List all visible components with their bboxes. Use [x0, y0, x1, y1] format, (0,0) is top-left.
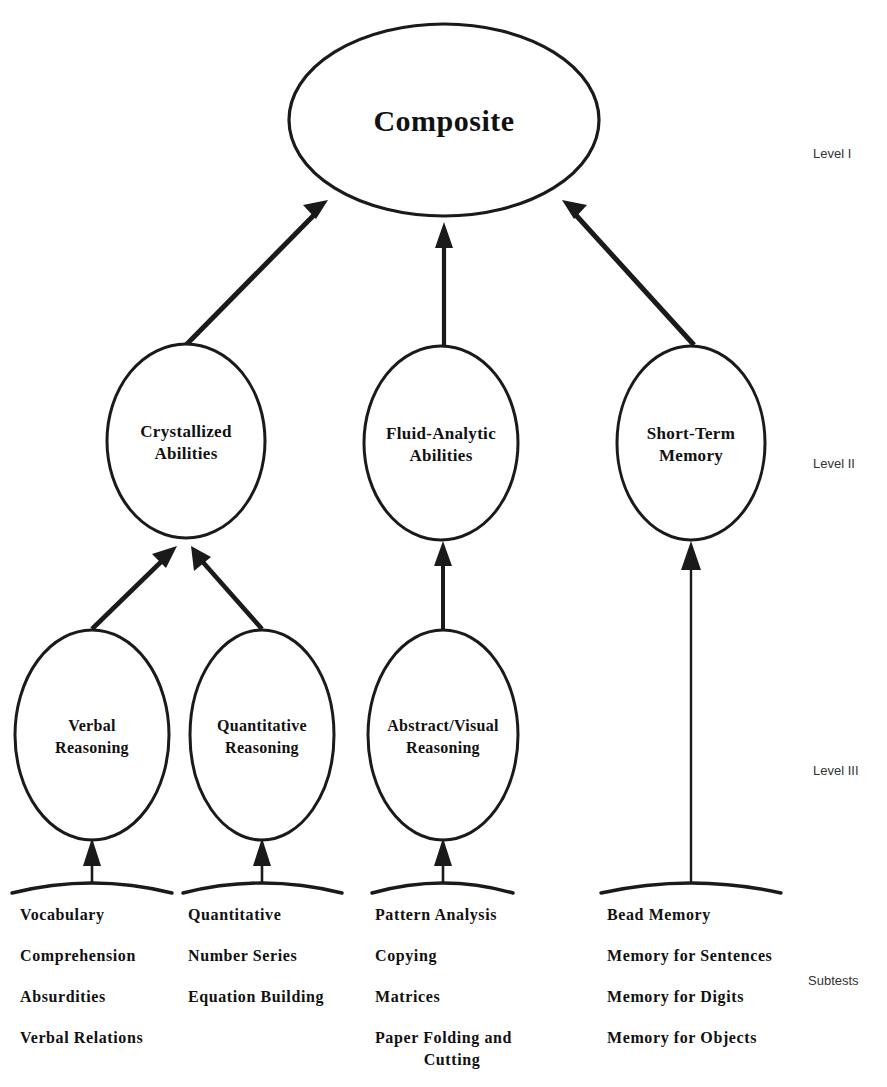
quantitative-reasoning-label-line1: Quantitative [217, 717, 307, 734]
subtest-item: Memory for Digits [607, 988, 744, 1006]
node-composite: Composite [289, 24, 599, 216]
subtest-item: Equation Building [188, 988, 324, 1006]
level-label-three: Level III [813, 763, 859, 778]
subtest-item: Copying [375, 947, 437, 965]
subtest-item: Memory for Objects [607, 1029, 757, 1047]
fluid-analytic-abilities-label-line2: Abilities [409, 446, 472, 465]
abstract-visual-reasoning-ellipse [368, 630, 518, 840]
brace-verbal-subtests [12, 883, 172, 893]
composite-label: Composite [373, 104, 514, 137]
subtest-item: Comprehension [20, 947, 136, 965]
arrow-quantitative-subtests-to-quantitative [253, 838, 271, 884]
arrow-crystallized-to-composite [186, 200, 328, 345]
arrow-abstractvisual-to-fluid [434, 541, 452, 630]
subtest-item: Vocabulary [20, 906, 105, 924]
crystallized-abilities-label-line1: Crystallized [140, 422, 232, 441]
fluid-analytic-abilities-ellipse [364, 346, 518, 540]
subtest-group-abstract-visual-reasoning: Pattern Analysis Copying Matrices Paper … [375, 906, 512, 1069]
subtest-item: Verbal Relations [20, 1029, 143, 1046]
arrow-verbal-subtests-to-verbal [83, 838, 101, 884]
verbal-reasoning-label-line2: Reasoning [55, 739, 129, 757]
level-label-one: Level I [813, 146, 851, 161]
verbal-reasoning-ellipse [15, 630, 169, 840]
subtest-item: Memory for Sentences [607, 947, 772, 965]
subtest-group-verbal-reasoning: Vocabulary Comprehension Absurdities Ver… [20, 906, 143, 1046]
arrow-abstract-subtests-to-abstract [434, 838, 452, 884]
short-term-memory-label-line1: Short-Term [647, 424, 735, 443]
brace-quantitative-subtests [183, 883, 342, 893]
short-term-memory-label-line2: Memory [659, 446, 723, 465]
verbal-reasoning-label-line1: Verbal [68, 717, 116, 734]
abstract-visual-reasoning-label-line1: Abstract/Visual [387, 717, 499, 734]
arrow-fluid-to-composite [435, 222, 453, 348]
arrow-quantitative-to-crystallized [191, 546, 262, 629]
brace-stm-subtests [601, 883, 781, 893]
level-label-subtests: Subtests [808, 973, 859, 988]
brace-abstract-subtests [372, 883, 513, 893]
node-verbal-reasoning: Verbal Reasoning [15, 630, 169, 840]
node-crystallized-abilities: Crystallized Abilities [107, 344, 265, 538]
node-short-term-memory: Short-Term Memory [617, 346, 765, 540]
arrow-stm-to-composite [562, 200, 694, 345]
quantitative-reasoning-label-line2: Reasoning [225, 739, 299, 757]
subtest-item: Matrices [375, 988, 440, 1005]
crystallized-abilities-label-line2: Abilities [154, 444, 217, 463]
subtest-group-short-term-memory: Bead Memory Memory for Sentences Memory … [607, 906, 772, 1047]
crystallized-abilities-ellipse [107, 344, 265, 538]
subtest-item: Number Series [188, 947, 297, 964]
node-abstract-visual-reasoning: Abstract/Visual Reasoning [368, 630, 518, 840]
subtest-item: Bead Memory [607, 906, 711, 924]
short-term-memory-ellipse [617, 346, 765, 540]
fluid-analytic-abilities-label-line1: Fluid-Analytic [386, 424, 496, 443]
arrow-verbal-to-crystallized [92, 546, 177, 629]
subtest-item: Quantitative [188, 906, 281, 923]
subtest-group-quantitative-reasoning: Quantitative Number Series Equation Buil… [188, 906, 324, 1006]
hierarchical-model-diagram: Composite Crystallized Abilities Fluid-A… [0, 0, 887, 1087]
abstract-visual-reasoning-label-line2: Reasoning [406, 739, 480, 757]
subtest-item: Absurdities [20, 988, 106, 1005]
subtest-item: Cutting [424, 1051, 481, 1069]
quantitative-reasoning-ellipse [190, 630, 334, 840]
level-label-two: Level II [813, 456, 855, 471]
arrow-stm-subtests-to-stm [681, 541, 701, 884]
node-fluid-analytic-abilities: Fluid-Analytic Abilities [364, 346, 518, 540]
subtest-item: Paper Folding and [375, 1029, 512, 1047]
subtest-item: Pattern Analysis [375, 906, 497, 924]
node-quantitative-reasoning: Quantitative Reasoning [190, 630, 334, 840]
